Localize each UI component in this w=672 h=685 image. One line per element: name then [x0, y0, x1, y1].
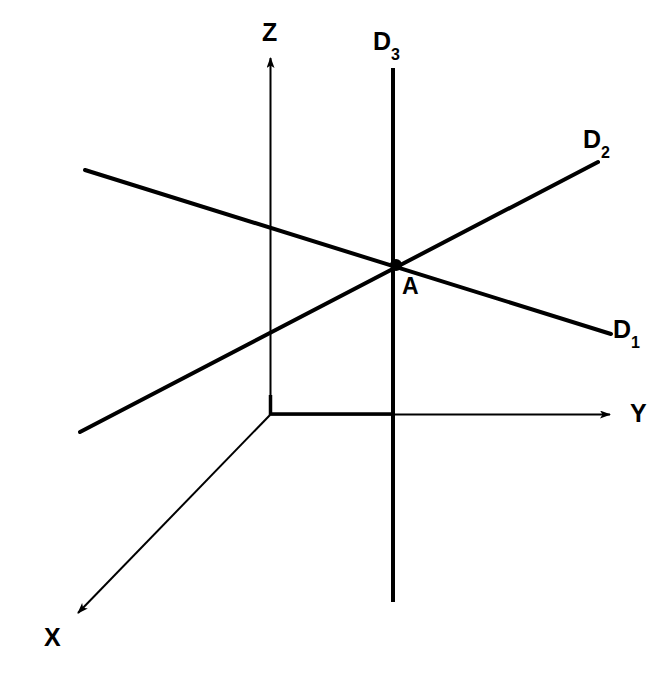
z-axis-label-text: Z — [262, 18, 277, 46]
d1-line-label: D1 — [613, 317, 640, 347]
d2-line — [80, 162, 598, 432]
x-axis-label-text: X — [44, 623, 61, 651]
x-axis-label: X — [44, 625, 61, 650]
d1-label-subscript: 1 — [631, 334, 640, 351]
y-axis-label: Y — [630, 401, 647, 426]
point-a-marker — [390, 259, 402, 271]
coordinate-system-diagram — [0, 0, 672, 685]
d2-label-subscript: 2 — [601, 144, 610, 161]
z-axis-label: Z — [262, 20, 277, 45]
point-a-label: A — [402, 275, 419, 298]
d3-label-base: D — [373, 27, 391, 55]
d3-line-label: D3 — [373, 29, 400, 59]
x-axis — [78, 415, 270, 613]
d2-label-base: D — [583, 125, 601, 153]
point-a-label-text: A — [402, 273, 419, 299]
d2-line-label: D2 — [583, 127, 610, 157]
d3-label-subscript: 3 — [391, 46, 400, 63]
y-axis-label-text: Y — [630, 399, 647, 427]
diagram-canvas: Z Y X D3 D2 D1 A — [0, 0, 672, 685]
d1-label-base: D — [613, 315, 631, 343]
